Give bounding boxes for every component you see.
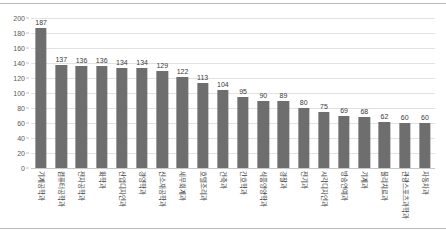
bar-value-label: 80	[300, 99, 308, 106]
y-axis-tick-mark	[26, 123, 29, 124]
bar-slot[interactable]: 68	[354, 18, 374, 168]
bottom-divider	[0, 228, 446, 229]
bar-value-label: 75	[320, 103, 328, 110]
bar-value-label: 95	[239, 88, 247, 95]
bar-slot[interactable]: 137	[51, 18, 71, 168]
bar[interactable]	[298, 108, 309, 168]
bar-slot[interactable]: 122	[172, 18, 192, 168]
x-axis-tick-label: 간호학과	[240, 171, 247, 195]
bar-slot[interactable]: 69	[334, 18, 354, 168]
y-axis: 020406080100120140160180200	[0, 18, 29, 168]
bar-slot[interactable]: 104	[213, 18, 233, 168]
x-axis-tick: 세무회계과	[172, 171, 192, 226]
bar-value-label: 113	[197, 74, 208, 81]
gridline	[31, 168, 435, 169]
x-axis-tick: 식품영양학과	[253, 171, 273, 226]
bar[interactable]	[278, 101, 289, 168]
bar[interactable]	[237, 97, 248, 168]
y-axis-tick-label: 100	[13, 90, 25, 97]
x-axis-tick-label: 경찰과	[280, 171, 287, 189]
y-axis-tick-mark	[26, 108, 29, 109]
x-axis-tick: 방송연예과	[334, 171, 354, 226]
bar-slot[interactable]: 136	[92, 18, 112, 168]
bar[interactable]	[76, 66, 87, 168]
bar-value-label: 90	[259, 92, 267, 99]
bar-slot[interactable]: 134	[112, 18, 132, 168]
bar-value-label: 129	[156, 62, 168, 69]
bar-slot[interactable]: 90	[253, 18, 273, 168]
y-axis-tick-mark	[26, 168, 29, 169]
y-axis-tick-label: 140	[13, 60, 25, 67]
x-axis-tick: 산업디자인과	[112, 171, 132, 226]
bar[interactable]	[116, 68, 127, 169]
x-axis-categories: 기계공학과컴퓨터공학과전자공학과화학과산업디자인과경영학과신소재공학과세무회계과…	[31, 171, 435, 226]
bar-series: 1871371361361341341291221131049590898075…	[31, 18, 435, 168]
bar[interactable]	[136, 68, 147, 169]
bar-slot[interactable]: 75	[314, 18, 334, 168]
bar-value-label: 62	[381, 113, 389, 120]
y-axis-tick-mark	[26, 33, 29, 34]
bar-slot[interactable]: 129	[152, 18, 172, 168]
x-axis-tick: 시각디자인과	[314, 171, 334, 226]
x-axis-tick: 간호학과	[233, 171, 253, 226]
bar[interactable]	[177, 77, 188, 169]
bar-slot[interactable]: 80	[294, 18, 314, 168]
x-axis-tick-label: 물리치료과	[381, 171, 388, 201]
bar[interactable]	[35, 28, 46, 168]
bar[interactable]	[379, 122, 390, 169]
bar-slot[interactable]: 89	[273, 18, 293, 168]
x-axis-tick-label: 방송연예과	[341, 171, 348, 201]
bar-value-label: 122	[177, 68, 189, 75]
bar-slot[interactable]: 136	[71, 18, 91, 168]
x-axis-tick-label: 경영학과	[139, 171, 146, 195]
y-axis-tick-label: 20	[17, 150, 25, 157]
bar-value-label: 134	[116, 59, 128, 66]
y-axis-tick-label: 200	[13, 15, 25, 22]
bar[interactable]	[56, 65, 67, 168]
x-axis-tick: 신소재공학과	[152, 171, 172, 226]
x-axis-tick-label: 시각디자인과	[321, 171, 328, 207]
chart-figure: 020406080100120140160180200 187137136136…	[0, 0, 446, 240]
bar-chart: 020406080100120140160180200 187137136136…	[0, 8, 446, 226]
bar[interactable]	[419, 123, 430, 168]
y-axis-tick-label: 40	[17, 135, 25, 142]
x-axis-tick-label: 자동차과	[422, 171, 429, 195]
bar-slot[interactable]: 62	[374, 18, 394, 168]
x-axis-tick-label: 건축과	[220, 171, 227, 189]
y-axis-tick-mark	[26, 153, 29, 154]
bar[interactable]	[258, 101, 269, 169]
bar[interactable]	[217, 90, 228, 168]
bar-value-label: 68	[360, 108, 368, 115]
bar-value-label: 89	[280, 92, 288, 99]
y-axis-tick-mark	[26, 18, 29, 19]
bar-value-label: 187	[35, 19, 47, 26]
bar[interactable]	[338, 116, 349, 168]
y-axis-tick-mark	[26, 93, 29, 94]
bar-slot[interactable]: 187	[31, 18, 51, 168]
x-axis-tick: 물리치료과	[374, 171, 394, 226]
bar[interactable]	[96, 66, 107, 168]
bar-slot[interactable]: 95	[233, 18, 253, 168]
bar[interactable]	[359, 117, 370, 168]
bar[interactable]	[399, 123, 410, 168]
x-axis-tick-label: 세무회계과	[179, 171, 186, 201]
x-axis-tick: 컴퓨터공학과	[51, 171, 71, 226]
y-axis-tick-label: 120	[13, 75, 25, 82]
bar-slot[interactable]: 134	[132, 18, 152, 168]
bar[interactable]	[157, 71, 168, 168]
bar-value-label: 60	[421, 114, 429, 121]
x-axis-tick: 관광스포츠과학과	[395, 171, 415, 226]
bar-value-label: 136	[76, 57, 88, 64]
x-axis-tick: 경찰과	[273, 171, 293, 226]
bar[interactable]	[197, 83, 208, 168]
bar[interactable]	[318, 112, 329, 168]
y-axis-tick-mark	[26, 138, 29, 139]
x-axis-tick-label: 관광스포츠과학과	[401, 171, 408, 219]
y-axis-tick-label: 180	[13, 30, 25, 37]
bar-slot[interactable]: 113	[193, 18, 213, 168]
x-axis-tick-label: 컴퓨터공학과	[58, 171, 65, 207]
x-axis-tick: 기계과	[354, 171, 374, 226]
bar-slot[interactable]: 60	[415, 18, 435, 168]
x-axis-tick: 자동차과	[415, 171, 435, 226]
bar-slot[interactable]: 60	[395, 18, 415, 168]
